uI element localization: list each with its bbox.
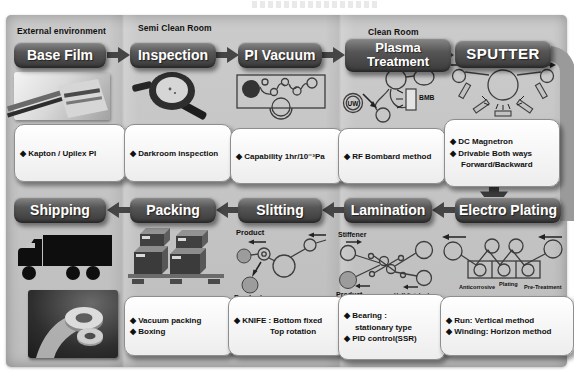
- note-box-base-film: ◆ Kapton / Upilex PI: [14, 124, 126, 182]
- unwind-roll: [242, 80, 260, 98]
- rolls-and-tanks: [444, 239, 562, 278]
- boxes: [134, 228, 208, 274]
- direction-arrow-icon: [538, 234, 545, 240]
- slitting-line-icon: Product Product: [230, 226, 330, 302]
- note-box-lamination: ◆ Bearing : stationary type ◆ PID contro…: [338, 294, 446, 360]
- product-roll: [237, 249, 251, 263]
- uw-label: UW: [348, 100, 360, 107]
- note-line: ◆ Vacuum packing: [130, 316, 228, 325]
- note-box-inspection: ◆ Darkroom inspection: [124, 124, 232, 182]
- bmb-label: BMB: [419, 94, 435, 101]
- step-header-inspection: Inspection: [130, 42, 216, 68]
- note-line: ◆ KNIFE : Bottom fixed: [234, 316, 340, 325]
- step-header-slitting: Slitting: [238, 197, 322, 223]
- note-line: ◆ Drivable Both ways: [450, 149, 554, 158]
- loupe-icon: [128, 66, 216, 122]
- note-line: ◆ DC Magnetron: [450, 137, 554, 146]
- note-line: ◆ Bearing :: [344, 311, 440, 320]
- step-header-plasma-treatment: Plasma Treatment: [345, 38, 451, 72]
- process-flow-poster: External environment Semi Clean Room Cle…: [0, 0, 574, 373]
- film-strips: [7, 79, 108, 118]
- note-line: Top rotation: [234, 327, 340, 336]
- pi-vacuum-diagram: [234, 70, 332, 128]
- foil-roll-photo: [28, 290, 118, 358]
- pallet: [128, 274, 224, 284]
- direction-arrow-icon: [357, 240, 362, 245]
- note-box-slitting: ◆ KNIFE : Bottom fixed Top rotation: [228, 296, 346, 356]
- base-film-photo: [14, 72, 110, 120]
- tank-label-pre-treatment: Pre-Treatment: [524, 284, 562, 290]
- note-line: ◆ Run: Vertical method: [446, 316, 568, 325]
- product-top-label: Product: [236, 228, 265, 237]
- step-header-base-film: Base Film: [14, 42, 106, 68]
- note-line: ◆ Winding: Horizon method: [446, 327, 568, 336]
- metal-foil-roll-illustration: [28, 290, 118, 358]
- note-line: ◆ RF Bombard method: [344, 152, 440, 161]
- note-box-packing: ◆ Vacuum packing ◆ Boxing: [124, 296, 234, 356]
- tank-label-plating: Plating: [499, 281, 518, 287]
- note-line: stationary type: [344, 323, 440, 332]
- packing-boxes: [126, 224, 226, 292]
- stiffener-label: Stiffener: [338, 231, 367, 238]
- slitting-diagram: Product Product: [230, 226, 330, 306]
- film-sheets-illustration: [14, 72, 110, 120]
- plasma-treatment-diagram: UW BMB: [340, 62, 452, 130]
- step-header-pi-vacuum: PI Vacuum: [238, 42, 322, 68]
- zone-label-clean-room: Clean Room: [368, 27, 419, 37]
- note-line: ◆ Kapton / Upilex PI: [20, 149, 120, 158]
- lamination-line-icon: Stiffener Product Half-finished: [334, 228, 440, 298]
- truck-icon: [16, 230, 116, 286]
- plating-tanks-icon: Anticorrosive Plating Pre-Treatment: [440, 232, 566, 294]
- note-line: ◆ Capability 1hr/10⁻³Pa: [236, 152, 338, 161]
- tank-label-anticorrosive: Anticorrosive: [459, 284, 495, 290]
- inspection-photo: [128, 66, 216, 126]
- direction-arrow-icon: [308, 233, 314, 238]
- product-roll: [340, 272, 357, 289]
- step-header-packing: Packing: [130, 197, 216, 223]
- bmb-unit: [406, 89, 416, 110]
- windshield: [25, 243, 35, 248]
- electro-plating-diagram: Anticorrosive Plating Pre-Treatment: [440, 232, 566, 298]
- sputter-diagram: [446, 60, 560, 126]
- step-header-sputter: SPUTTER: [455, 40, 551, 68]
- roll-to-roll-vacuum-icon: [234, 70, 332, 124]
- note-line: ◆ PID control(SSR): [344, 334, 440, 343]
- note-box-electro-plating: ◆ Run: Vertical method ◆ Winding: Horizo…: [440, 296, 574, 356]
- shipping-truck: [16, 230, 116, 290]
- rolls-and-web: [251, 239, 326, 277]
- zone-label-external-environment: External environment: [17, 26, 106, 36]
- direction-arrow-icon: [442, 234, 449, 240]
- step-header-electro-plating: Electro Plating: [455, 197, 561, 223]
- note-box-pi-vacuum: ◆ Capability 1hr/10⁻³Pa: [230, 128, 344, 184]
- direction-arrow-icon: [248, 240, 254, 245]
- note-line: ◆ Darkroom inspection: [130, 149, 226, 158]
- boxes-on-pallet-illustration: [126, 224, 226, 288]
- note-box-plasma: ◆ RF Bombard method: [338, 128, 446, 184]
- product-roll: [242, 277, 258, 293]
- cropped-title-text: [252, 1, 380, 8]
- sputter-drum-icon: [446, 60, 560, 122]
- note-line: ◆ Boxing: [130, 327, 228, 336]
- note-box-sputter: ◆ DC Magnetron ◆ Drivable Both ways Forw…: [444, 119, 560, 187]
- step-header-shipping: Shipping: [14, 197, 106, 223]
- direction-arrow-icon: [403, 285, 408, 290]
- note-line: Forward/Backward: [450, 160, 554, 169]
- direction-arrow-icon: [550, 62, 556, 68]
- zone-label-semi-clean-room: Semi Clean Room: [138, 23, 212, 33]
- step-header-lamination: Lamination: [344, 197, 432, 223]
- plasma-spark-icon: [396, 90, 403, 108]
- lamination-diagram: Stiffener Product Half-finished: [334, 228, 440, 302]
